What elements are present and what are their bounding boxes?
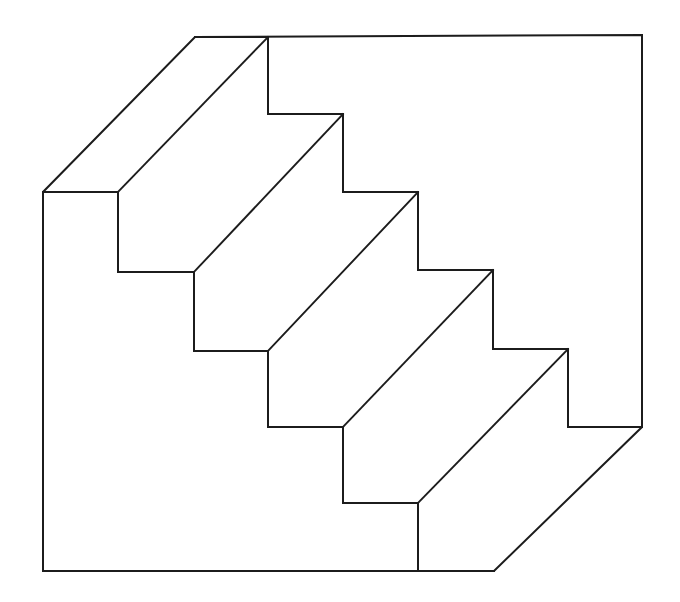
drawing-background: [0, 0, 680, 602]
figure-canvas: Schroeder staircase optical illusion Axo…: [0, 0, 680, 602]
schroeder-staircase-drawing: [0, 0, 680, 602]
